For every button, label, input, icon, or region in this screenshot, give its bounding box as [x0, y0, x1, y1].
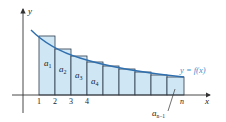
tick-n: n: [180, 97, 184, 106]
rect-a8: [151, 75, 167, 95]
rect-a5: [103, 66, 119, 95]
tick-3: 3: [69, 97, 73, 106]
x-axis-label: x: [204, 96, 209, 106]
y-axis-label: y: [27, 6, 32, 16]
tick-1: 1: [37, 97, 41, 106]
curve-label: y = f(x): [179, 65, 206, 75]
label-an1: an−1: [152, 108, 165, 119]
tick-2: 2: [53, 97, 57, 106]
rect-a7: [135, 72, 151, 95]
rect-an1: [167, 77, 184, 95]
tick-4: 4: [85, 97, 89, 106]
series-integral-diagram: y x 1 2 3 4 n a1 a2 a3 a4 an−1 y = f(x): [0, 0, 226, 122]
rect-a6: [119, 69, 135, 95]
